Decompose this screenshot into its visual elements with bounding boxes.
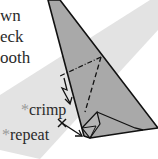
instruction-line-2: eck: [0, 28, 24, 45]
asterisk-icon: *: [21, 101, 29, 118]
repeat-text: repeat: [10, 126, 49, 143]
crimp-text: crimp: [29, 101, 66, 118]
crimp-label: *crimp: [21, 102, 66, 118]
instruction-line-1: wn: [0, 7, 21, 24]
origami-diagram: wn eck ooth *crimp *repeat: [0, 0, 158, 159]
instruction-line-3: ooth: [0, 49, 30, 66]
repeat-label: *repeat: [2, 127, 49, 143]
asterisk-icon: *: [2, 126, 10, 143]
